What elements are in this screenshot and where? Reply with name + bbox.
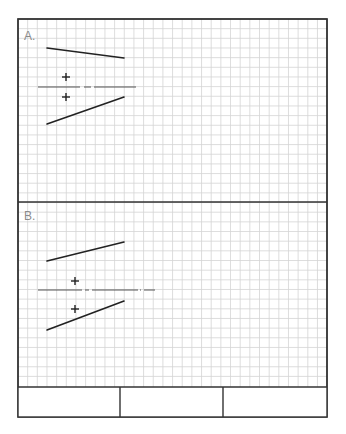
panel-b: B. <box>24 209 155 330</box>
panel-a: A. <box>24 29 136 124</box>
graph-paper-grid <box>18 19 327 387</box>
footer-background <box>18 387 327 417</box>
grid-worksheet: A.B. <box>0 0 346 434</box>
panel-label: A. <box>24 29 35 43</box>
panel-label: B. <box>24 209 35 223</box>
figure-panels: A.B. <box>24 29 155 330</box>
